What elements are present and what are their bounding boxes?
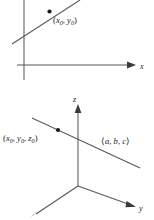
x-axis-arrowhead-2d xyxy=(127,62,136,69)
x-axis-arrowhead-3d xyxy=(30,211,38,218)
x-axis-label-2d: x xyxy=(139,62,144,71)
point-label-close-paren-3d: ) xyxy=(35,133,38,143)
figure-2d-line-in-plane: (x0, y0) x xyxy=(0,0,154,100)
vector-label-close-bracket: ⟩ xyxy=(126,136,130,146)
point-label-2d: (x0, y0) xyxy=(53,15,77,26)
direction-vector-label: ⟨a, b, c⟩ xyxy=(101,136,130,146)
z-axis-label-3d: z xyxy=(72,96,77,104)
point-marker-2d xyxy=(47,9,51,13)
point-label-3d: (x0, y0, z0) xyxy=(3,133,38,144)
x-axis-3d xyxy=(36,186,78,214)
point-marker-3d xyxy=(56,128,60,132)
y-axis-3d xyxy=(78,186,128,204)
figure-3d-line-in-space: (x0, y0, z0) ⟨a, b, c⟩ z y xyxy=(0,96,154,220)
point-label-close-paren-2d: ) xyxy=(74,15,77,25)
y-axis-label-3d: y xyxy=(138,204,143,213)
y-axis-arrowhead-3d xyxy=(125,201,136,207)
z-axis-arrowhead-3d xyxy=(75,104,82,113)
